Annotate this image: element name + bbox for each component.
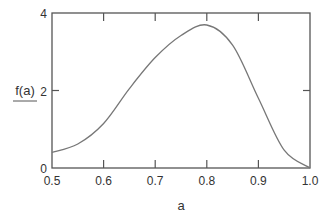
x-tick-label: 0.8 xyxy=(198,174,215,188)
x-tick-label: 0.7 xyxy=(147,174,164,188)
y-axis-ticks: 024 xyxy=(40,7,310,176)
x-axis-label: a xyxy=(177,198,185,213)
x-tick-label: 1.0 xyxy=(302,174,319,188)
x-tick-label: 0.5 xyxy=(44,174,61,188)
y-tick-label: 0 xyxy=(40,162,47,176)
line-chart: 0.50.60.70.80.91.0 024 a f(a) xyxy=(0,0,327,223)
data-line-f-a xyxy=(52,25,310,168)
y-tick-label: 2 xyxy=(40,85,47,99)
plot-frame xyxy=(52,13,310,168)
x-tick-label: 0.6 xyxy=(95,174,112,188)
x-axis-ticks: 0.50.60.70.80.91.0 xyxy=(44,13,319,188)
y-tick-label: 4 xyxy=(40,7,47,21)
y-axis-label: f(a) xyxy=(15,83,35,98)
x-tick-label: 0.9 xyxy=(250,174,267,188)
